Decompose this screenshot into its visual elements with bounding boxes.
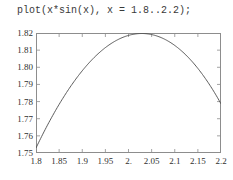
x-axis-tick-label: 2.05 (144, 156, 160, 166)
y-axis-tick-label: 1.78 (0, 97, 33, 107)
y-axis-tick-label: 1.79 (0, 79, 33, 89)
plot-area (36, 33, 221, 153)
x-axis-tick-label: 1.85 (51, 156, 67, 166)
y-axis-tick-label: 1.81 (0, 45, 33, 55)
x-axis-tick-label: 1.9 (77, 156, 88, 166)
plot-command-text: plot(x*sin(x), x = 1.8..2.2); (17, 4, 191, 18)
y-axis-tick-label: 1.76 (0, 131, 33, 141)
function-curve (36, 33, 221, 153)
y-axis-tick-label: 1.82 (0, 28, 33, 38)
y-axis-tick-label: 1.75 (0, 148, 33, 158)
y-axis-tick-label: 1.80 (0, 62, 33, 72)
plot-screenshot: plot(x*sin(x), x = 1.8..2.2); 1.751.761.… (0, 0, 233, 180)
x-axis-tick-label: 2. (125, 156, 132, 166)
x-axis-tick-label: 2.2 (215, 156, 226, 166)
x-axis-tick-label: 1.8 (30, 156, 41, 166)
x-axis-tick-label: 1.95 (98, 156, 114, 166)
y-axis-tick-label: 1.77 (0, 114, 33, 124)
x-axis-tick-label: 2.1 (169, 156, 180, 166)
x-axis-tick-label: 2.15 (190, 156, 206, 166)
